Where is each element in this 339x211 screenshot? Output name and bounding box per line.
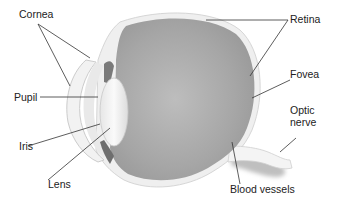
label-lens: Lens [48,178,71,190]
optic-nerve-leader [280,138,296,152]
retina-leader-lower [250,20,288,76]
label-pupil: Pupil [14,91,37,103]
eye-diagram: Cornea Pupil Iris Lens Retina Fovea Opti… [0,0,339,211]
label-fovea: Fovea [290,68,319,80]
cornea-leader-upper [38,24,90,58]
cornea-leader-lower [38,24,70,86]
label-blood-vessels: Blood vessels [230,183,295,195]
lens-shape [100,78,128,146]
label-optic-nerve-line1: Optic [290,104,315,116]
label-retina: Retina [290,13,320,25]
label-optic-nerve-line2: nerve [290,116,316,128]
label-iris: Iris [19,140,33,152]
label-cornea: Cornea [19,8,53,20]
